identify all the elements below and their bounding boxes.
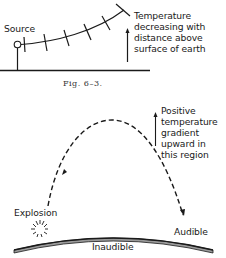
audible-label: Audible [174,226,208,237]
top-figure [0,4,150,71]
source-icon [14,41,21,48]
annotation-line: decreasing with [134,21,206,32]
wavefront-tick [84,24,91,40]
annotation-line: temperature [161,116,218,127]
wavefront-tick [24,37,25,52]
annotation-line: Temperature [134,10,206,21]
source-label: Source [4,23,35,34]
annotation-line: gradient [161,127,218,138]
top-annotation: Temperature decreasing with distance abo… [134,10,206,54]
figure-caption: Fig. 6–3. [63,79,103,88]
arrow-head-icon [62,169,67,175]
annotation-line: surface of earth [134,43,206,54]
annotation-line: upward in [161,138,218,149]
inaudible-label: Inaudible [92,241,134,252]
arrow-head-icon [126,28,130,33]
bottom-annotation: Positive temperature gradient upward in … [161,105,218,160]
arrow-head-icon [154,112,158,117]
annotation-line: distance above [134,32,206,43]
explosion-label: Explosion [14,207,57,218]
annotation-line: this region [161,149,218,160]
wavefront-tick [44,34,47,51]
wavefront-tick [64,30,69,46]
explosion-burst-icon [31,220,48,237]
annotation-line: Positive [161,105,218,116]
